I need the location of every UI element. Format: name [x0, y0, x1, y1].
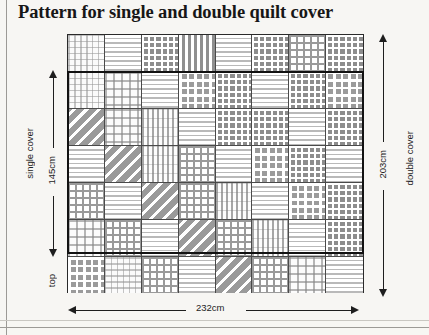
quilt-patch	[289, 35, 326, 72]
page-edge-bottom-faint	[0, 320, 429, 321]
quilt-patch	[289, 72, 326, 109]
quilt-patch	[252, 257, 289, 293]
quilt-row	[68, 146, 363, 183]
quilt-patch	[289, 257, 326, 293]
quilt-patch	[216, 72, 253, 109]
quilt-patch	[326, 35, 363, 72]
single-cover-dimension-label: 145cm	[46, 156, 57, 185]
quilt-patch	[179, 35, 216, 72]
quilt-patch	[105, 35, 142, 72]
quilt-patch	[252, 146, 289, 183]
width-arrow-head-left	[68, 306, 76, 314]
double-cover-dimension-label: 203cm	[377, 150, 388, 179]
quilt-patch	[216, 220, 253, 257]
quilt-patch	[326, 146, 363, 183]
quilt-patch	[179, 146, 216, 183]
quilt-row	[68, 257, 363, 293]
quilt-patch	[326, 183, 363, 220]
double-cover-arrow-head-up	[379, 34, 387, 42]
quilt-patch	[179, 109, 216, 146]
quilt-patch	[105, 257, 142, 293]
quilt-row	[68, 35, 363, 72]
quilt-row	[68, 72, 363, 109]
quilt-patch	[252, 109, 289, 146]
quilt-patch	[68, 146, 105, 183]
quilt-patch	[216, 146, 253, 183]
quilt-patch	[326, 220, 363, 257]
quilt-patch	[142, 183, 179, 220]
width-arrow-line-left	[76, 310, 186, 311]
quilt-patch	[68, 183, 105, 220]
quilt-patch	[68, 257, 105, 293]
quilt-patch	[179, 257, 216, 293]
quilt-patch	[105, 109, 142, 146]
width-arrow-line-right	[246, 310, 351, 311]
quilt-patch	[289, 183, 326, 220]
quilt-patch	[105, 183, 142, 220]
quilt-patch	[289, 146, 326, 183]
double-cover-arrow-line-upper	[383, 42, 384, 142]
quilt-patch	[142, 257, 179, 293]
quilt-patch	[179, 72, 216, 109]
quilt-patch	[252, 72, 289, 109]
page-edge-bottom	[0, 327, 429, 328]
quilt-patch	[142, 220, 179, 257]
quilt-patch	[68, 220, 105, 257]
quilt-row	[68, 109, 363, 146]
quilt-row	[68, 220, 363, 257]
width-dimension-label: 232cm	[196, 302, 225, 313]
quilt-patch	[142, 35, 179, 72]
quilt-patch	[216, 257, 253, 293]
quilt-pattern-grid	[67, 34, 364, 293]
quilt-patch	[216, 183, 253, 220]
single-cover-arrow-line-upper	[53, 78, 54, 148]
quilt-patch	[68, 109, 105, 146]
quilt-patch	[216, 109, 253, 146]
quilt-patch	[289, 109, 326, 146]
quilt-patch	[142, 146, 179, 183]
quilt-patch	[105, 220, 142, 257]
quilt-row	[68, 183, 363, 220]
quilt-patch	[105, 146, 142, 183]
quilt-patch	[179, 220, 216, 257]
double-cover-label: double cover	[404, 131, 415, 185]
quilt-patch	[216, 35, 253, 72]
quilt-patch	[252, 35, 289, 72]
quilt-patch	[179, 183, 216, 220]
quilt-patch	[68, 35, 105, 72]
page-title: Pattern for single and double quilt cove…	[18, 2, 333, 23]
single-cover-label: single cover	[24, 128, 35, 179]
double-cover-arrow-line-lower	[383, 190, 384, 290]
double-cover-arrow-head-down	[379, 289, 387, 297]
single-cover-arrow-line-lower	[53, 196, 54, 251]
page-edge-left	[6, 0, 7, 335]
quilt-patch	[326, 72, 363, 109]
quilt-patch	[68, 72, 105, 109]
quilt-patch	[252, 183, 289, 220]
quilt-patch	[142, 72, 179, 109]
quilt-patch	[289, 220, 326, 257]
width-arrow-head-right	[351, 306, 359, 314]
top-edge-label: top	[46, 274, 57, 287]
quilt-patch	[326, 257, 363, 293]
quilt-patch	[142, 109, 179, 146]
quilt-patch	[105, 72, 142, 109]
quilt-patch	[252, 220, 289, 257]
quilt-patch	[326, 109, 363, 146]
single-cover-arrow-head-down	[49, 249, 57, 257]
single-cover-arrow-head-up	[49, 70, 57, 78]
